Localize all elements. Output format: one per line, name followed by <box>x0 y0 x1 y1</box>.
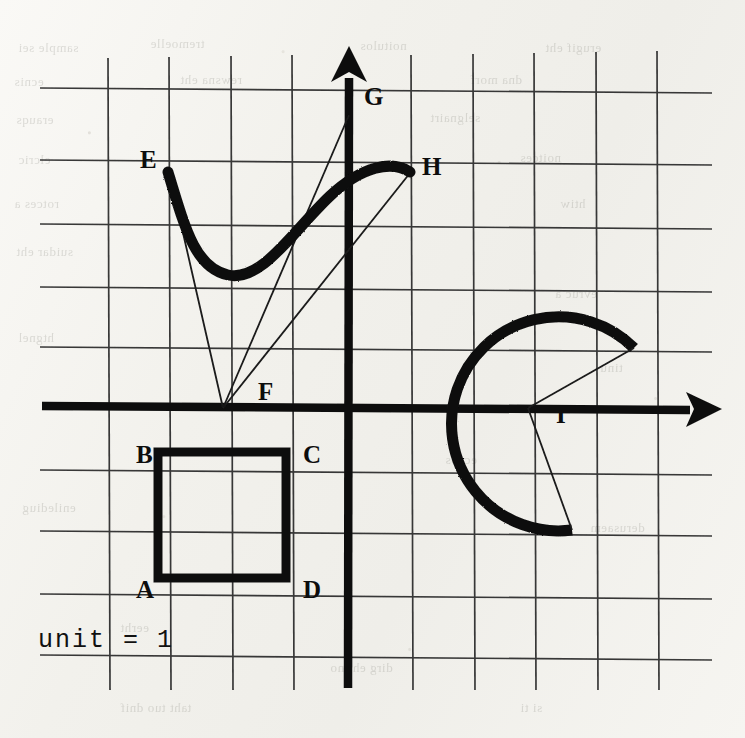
point-label-A: A <box>136 576 154 603</box>
x-axis-line <box>42 406 690 410</box>
point-label-H: H <box>422 153 442 180</box>
grid-line-vertical <box>596 52 598 690</box>
segment-F-G <box>223 115 349 408</box>
curve-path <box>168 166 410 275</box>
point-label-C: C <box>303 441 321 468</box>
point-label-E: E <box>140 146 157 173</box>
arc-path <box>452 317 634 531</box>
x-axis-arrowhead <box>686 392 722 427</box>
y-axis-line <box>348 78 349 688</box>
grid-line-horizontal <box>40 531 712 536</box>
point-label-I: I <box>556 401 566 428</box>
grid-line-vertical <box>411 55 413 690</box>
point-label-B: B <box>136 441 153 468</box>
grid-line-vertical <box>534 53 536 690</box>
figure-sheet: sample seitremoellenoituloserugif ehtecn… <box>0 0 745 738</box>
unit-caption: unit = 1 <box>38 626 174 655</box>
point-label-F: F <box>258 378 273 405</box>
y-axis-arrowhead <box>331 46 367 82</box>
grid-line-vertical <box>473 54 475 690</box>
grid-line-vertical <box>292 55 294 690</box>
grid-line-horizontal <box>40 347 712 352</box>
arc-sector-i <box>452 317 634 531</box>
grid-line-horizontal <box>40 224 712 229</box>
grid-line-horizontal <box>40 287 712 292</box>
radius-upper <box>528 348 634 408</box>
point-label-G: G <box>364 83 383 110</box>
grid-line-horizontal <box>40 655 712 660</box>
grid-line-horizontal <box>40 470 712 475</box>
point-label-D: D <box>303 576 321 603</box>
grid-line-vertical <box>657 51 659 690</box>
curve-e-to-h <box>168 166 410 275</box>
